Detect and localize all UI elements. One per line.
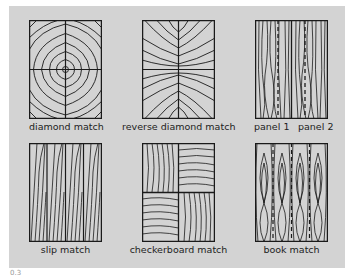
book-match-label: book match [255, 244, 328, 255]
diamond-match-diagram [29, 20, 102, 119]
checkerboard-match-diagram [142, 143, 215, 242]
diamond-match-label: diamond match [29, 121, 102, 132]
slip-match-label: slip match [29, 244, 102, 255]
reverse-diamond-match-diagram [142, 20, 215, 119]
checkerboard-match-label: checkerboard match [122, 244, 235, 255]
slip-match-diagram [29, 143, 102, 242]
panel-match-diagram [255, 20, 328, 119]
figure-number: 0.3 [10, 269, 21, 277]
panel-2-label: panel 2 [298, 121, 333, 132]
book-match-diagram [255, 143, 328, 242]
reverse-diamond-match-label: reverse diamond match [122, 121, 235, 132]
panel-1-label: panel 1 [254, 121, 289, 132]
